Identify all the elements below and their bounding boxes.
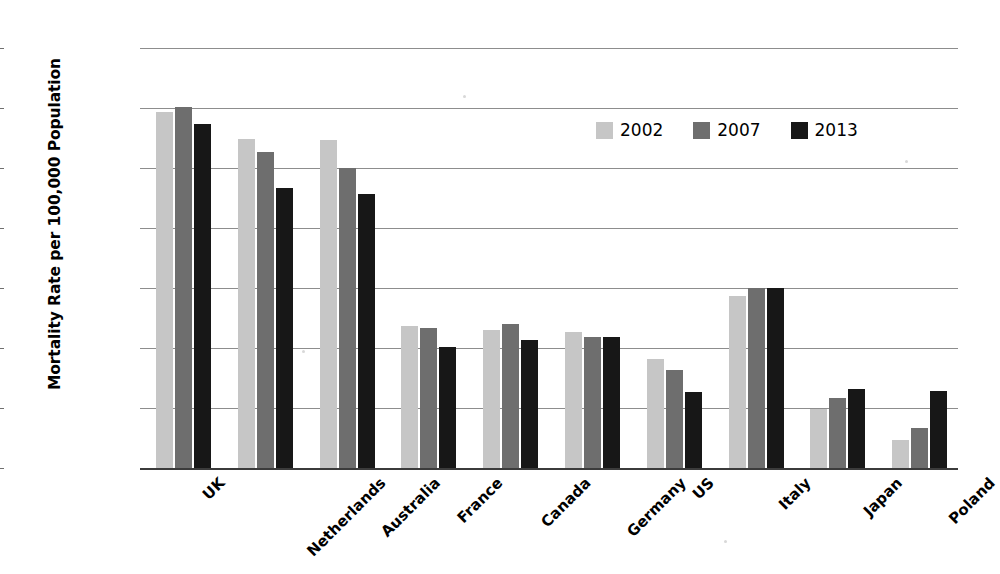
y-axis-tick-mark <box>0 468 4 469</box>
bar-group <box>238 48 293 468</box>
x-axis-tick-label: UK <box>198 474 228 504</box>
bar-chart: Mortality Rate per 100,000 Population 0.… <box>0 0 1000 574</box>
bar <box>439 347 456 468</box>
chart-legend: 200220072013 <box>596 120 858 140</box>
scan-speck <box>724 540 727 543</box>
x-axis-tick-label: US <box>689 474 718 503</box>
bar <box>810 409 827 468</box>
bar <box>685 392 702 468</box>
bar <box>156 112 173 468</box>
y-axis-tick-mark <box>0 408 4 409</box>
bar-group <box>892 48 947 468</box>
legend-label: 2013 <box>815 120 858 140</box>
bar-group <box>729 48 784 468</box>
bar <box>257 152 274 468</box>
bar <box>767 288 784 468</box>
bar <box>829 398 846 468</box>
legend-item: 2013 <box>791 120 858 140</box>
y-axis-tick-mark <box>0 288 4 289</box>
bar-group <box>156 48 211 468</box>
legend-label: 2002 <box>620 120 663 140</box>
x-axis-tick-label: Japan <box>860 474 906 520</box>
bar-group <box>565 48 620 468</box>
bar-group <box>810 48 865 468</box>
bar-group <box>320 48 375 468</box>
y-axis-tick-mark <box>0 348 4 349</box>
x-axis-tick-label: Italy <box>775 474 814 513</box>
x-axis-tick-label: Germany <box>623 474 690 541</box>
bar <box>647 359 664 468</box>
bar <box>194 124 211 468</box>
bar <box>930 391 947 468</box>
bar <box>483 330 500 468</box>
x-axis-tick-label: Poland <box>945 474 999 528</box>
y-axis-tick-mark <box>0 48 4 49</box>
x-axis-line <box>140 468 958 470</box>
scan-speck <box>302 350 305 353</box>
bar <box>892 440 909 468</box>
bar <box>358 194 375 468</box>
bar-group <box>647 48 702 468</box>
x-axis-tick-label: Canada <box>537 474 594 531</box>
bar <box>175 107 192 468</box>
y-axis-tick-mark <box>0 228 4 229</box>
bar <box>320 140 337 468</box>
bar <box>729 296 746 468</box>
bar <box>584 337 601 468</box>
bar <box>420 328 437 468</box>
bar <box>848 389 865 468</box>
x-axis-tick-label: Netherlands <box>304 474 390 560</box>
y-axis-tick-mark <box>0 168 4 169</box>
bar <box>603 337 620 468</box>
bar <box>521 340 538 468</box>
bar <box>565 332 582 468</box>
bar <box>339 168 356 468</box>
legend-item: 2007 <box>693 120 760 140</box>
bar <box>276 188 293 468</box>
bar <box>748 288 765 468</box>
legend-swatch-icon <box>596 122 613 139</box>
legend-item: 2002 <box>596 120 663 140</box>
scan-speck <box>905 160 908 163</box>
bar <box>401 326 418 468</box>
x-axis-tick-label: France <box>453 474 506 527</box>
y-axis-title: Mortality Rate per 100,000 Population <box>46 14 64 434</box>
plot-area <box>140 48 958 468</box>
y-axis-tick-mark <box>0 108 4 109</box>
bar <box>238 139 255 468</box>
bar <box>502 324 519 468</box>
legend-label: 2007 <box>717 120 760 140</box>
bar <box>911 428 928 468</box>
scan-speck <box>463 95 466 98</box>
bar-group <box>401 48 456 468</box>
bar <box>666 370 683 468</box>
bar-group <box>483 48 538 468</box>
legend-swatch-icon <box>693 122 710 139</box>
legend-swatch-icon <box>791 122 808 139</box>
